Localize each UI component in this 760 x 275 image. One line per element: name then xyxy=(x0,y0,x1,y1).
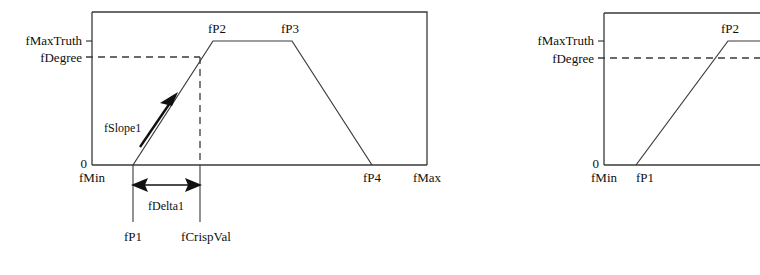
right-label-fp2: fP2 xyxy=(721,21,739,36)
right-label-fmin: fMin xyxy=(591,170,618,185)
left-label-fp1: fP1 xyxy=(124,229,142,244)
figure-canvas: fMaxTruth fDegree 0 fMin fP2 fP3 fP4 fMa… xyxy=(0,0,760,275)
left-label-fmaxtruth: fMaxTruth xyxy=(25,33,82,48)
left-delta-double-arrow-icon xyxy=(131,178,202,192)
left-label-fp2: fP2 xyxy=(208,21,226,36)
left-label-fslope1: fSlope1 xyxy=(104,121,141,135)
right-label-fp1: fP1 xyxy=(636,170,654,185)
right-label-fmaxtruth: fMaxTruth xyxy=(537,33,594,48)
right-label-fdegree: fDegree xyxy=(552,51,594,66)
left-label-fcrispval: fCrispVal xyxy=(181,229,231,244)
left-slope-arrow-icon xyxy=(140,92,178,147)
left-label-fmax: fMax xyxy=(413,170,442,185)
left-label-fp4: fP4 xyxy=(363,170,382,185)
left-label-zero: 0 xyxy=(81,156,88,171)
left-label-fp3: fP3 xyxy=(281,21,299,36)
left-chart: fMaxTruth fDegree 0 fMin fP2 fP3 fP4 fMa… xyxy=(25,12,441,244)
right-label-zero: 0 xyxy=(593,156,600,171)
left-label-fdegree: fDegree xyxy=(40,50,82,65)
left-label-fmin: fMin xyxy=(79,170,106,185)
right-chart: fMaxTruth fDegree 0 fMin fP1 fP2 xyxy=(537,13,760,185)
right-membership-curve xyxy=(636,41,760,165)
left-label-fdelta1: fDelta1 xyxy=(148,199,184,213)
